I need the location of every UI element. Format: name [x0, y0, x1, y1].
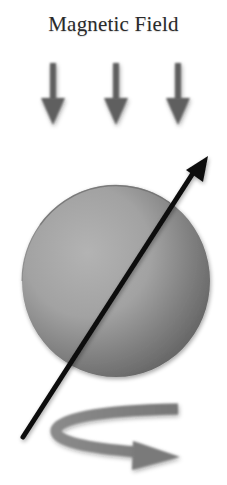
field-arrow-middle: [104, 63, 128, 125]
spin-diagram: [0, 0, 227, 485]
sphere: [22, 185, 210, 377]
field-arrow-right: [166, 63, 190, 125]
field-arrows: [41, 63, 190, 125]
field-arrow-left: [41, 63, 65, 125]
rotation-arrow: [56, 409, 180, 470]
